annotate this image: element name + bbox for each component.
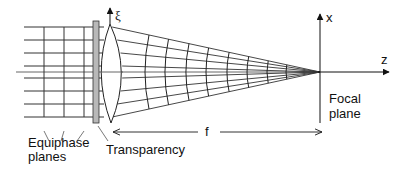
focal-length-label: f	[205, 125, 209, 139]
converging-ray	[112, 72, 320, 117]
transparency-label: Transparency	[106, 143, 185, 157]
transparency-plate	[93, 21, 99, 123]
focal-plane-label-line2: plane	[329, 107, 361, 121]
xi-axis-label: ξ	[115, 9, 121, 22]
equiphase-label-line2: planes	[28, 150, 66, 164]
converging-ray	[112, 27, 320, 72]
lens	[101, 24, 121, 123]
transparency-leader-line	[98, 126, 108, 141]
equiphase-label-line1: Equiphase	[28, 136, 89, 150]
x-axis-label: x	[326, 11, 333, 25]
focal-plane-label-line1: Focal	[329, 92, 361, 106]
z-axis-label: z	[381, 53, 388, 67]
